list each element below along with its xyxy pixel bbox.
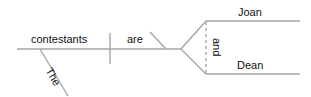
conjunction-word: and: [211, 38, 222, 56]
verb-word: are: [127, 34, 143, 45]
subject-word: contestants: [31, 34, 87, 45]
diagram-lines: [0, 0, 311, 97]
complement-word-1: Joan: [238, 7, 262, 18]
fork-upper: [181, 21, 300, 49]
complement-word-2: Dean: [237, 60, 263, 71]
complement-slash: [150, 32, 166, 49]
